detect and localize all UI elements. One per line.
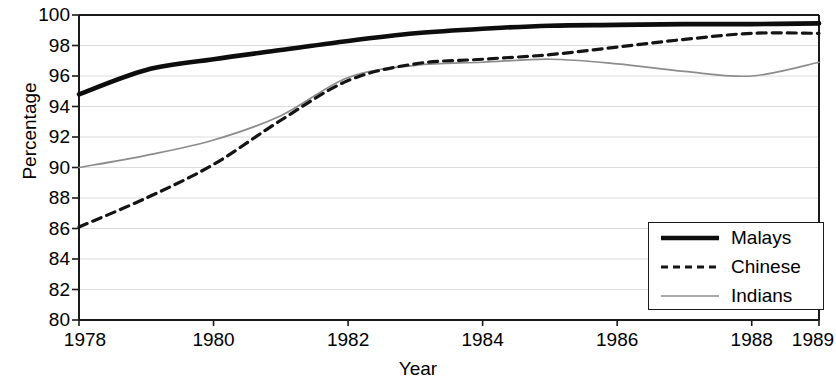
x-tick-label: 1989 [773, 330, 836, 349]
y-tick-label: 86 [14, 219, 70, 238]
series-line-malays [79, 23, 819, 94]
y-tick-label: 94 [14, 97, 70, 116]
y-tick-label: 92 [14, 127, 70, 146]
x-tick-label: 1980 [174, 330, 254, 349]
chart-legend: Malays Chinese Indians [648, 222, 824, 310]
legend-swatch-solid-thin-icon [659, 286, 721, 306]
legend-label-indians: Indians [731, 286, 792, 305]
legend-entry-indians: Indians [649, 281, 823, 310]
legend-entry-chinese: Chinese [649, 252, 823, 281]
y-tick-label: 82 [14, 280, 70, 299]
y-tick-label: 90 [14, 158, 70, 177]
legend-label-malays: Malays [731, 228, 791, 247]
y-tick-label: 80 [14, 310, 70, 329]
legend-entry-malays: Malays [649, 223, 823, 252]
series-line-indians [79, 59, 819, 167]
y-tick-label: 84 [14, 249, 70, 268]
y-tick-label: 98 [14, 36, 70, 55]
x-axis-title: Year [0, 358, 836, 380]
legend-label-chinese: Chinese [731, 257, 801, 276]
x-tick-label: 1978 [45, 330, 125, 349]
x-tick-label: 1984 [443, 330, 523, 349]
chart-figure: Percentage Year 80828486889092949698100 … [0, 0, 836, 386]
legend-swatch-solid-thick-icon [659, 228, 721, 248]
y-tick-label: 96 [14, 66, 70, 85]
x-tick-label: 1986 [577, 330, 657, 349]
data-series-group [79, 23, 819, 227]
x-tick-label: 1982 [308, 330, 388, 349]
y-tick-label: 88 [14, 188, 70, 207]
y-tick-label: 100 [14, 5, 70, 24]
line-chart-plot [0, 0, 836, 386]
legend-swatch-dashed-icon [659, 257, 721, 277]
